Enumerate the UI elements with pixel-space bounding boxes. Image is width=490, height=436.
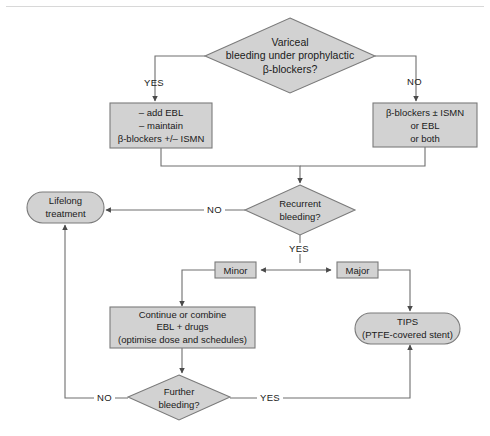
flowchart: Variceal bleeding under prophylactic β-b… [0,0,490,436]
flowchart-canvas [0,0,490,436]
shape-major-box[interactable] [337,262,378,278]
edge-label-top-yes: YES [144,77,164,88]
shape-variceal-bleeding-decision[interactable] [205,18,375,93]
shape-tips-box[interactable] [355,313,460,344]
edge-label-recurrent-yes: YES [287,243,311,254]
shape-minor-box[interactable] [215,262,256,278]
shape-further-bleeding-decision[interactable] [128,375,230,420]
shape-beta-blockers-ismn-box[interactable] [373,103,477,147]
edge-label-further-no: NO [94,392,115,403]
shape-recurrent-bleeding-decision[interactable] [245,185,355,235]
shape-continue-or-combine-box[interactable] [110,307,255,348]
edge-label-recurrent-no: NO [204,204,225,215]
shape-lifelong-treatment-box[interactable] [27,192,104,223]
edge-label-top-no: NO [407,76,422,87]
edge-label-further-yes: YES [257,392,283,403]
shape-add-ebl-maintain-box[interactable] [110,103,212,148]
